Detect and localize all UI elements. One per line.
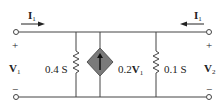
terminal-right-bottom: [207, 95, 212, 100]
terminal-left-top: [14, 30, 19, 35]
current-label-right: I1: [194, 10, 202, 23]
current-label-left: I1: [28, 10, 36, 23]
resistor-0.1s: [153, 32, 159, 97]
plus-sign-left: +: [12, 40, 18, 51]
source-label: 0.2V1: [118, 64, 143, 77]
minus-sign-right: −: [206, 84, 212, 95]
dependent-current-source: [87, 48, 113, 76]
terminal-right-top: [207, 30, 212, 35]
voltage-label-v1: V1: [9, 63, 20, 76]
plus-sign-right: +: [206, 40, 212, 51]
minus-sign-left: −: [12, 84, 18, 95]
terminal-left-bottom: [14, 95, 19, 100]
resistor-0.4s: [73, 32, 79, 97]
resistor-label-0.1s: 0.1 S: [164, 64, 187, 75]
resistor-label-0.4s: 0.4 S: [45, 64, 68, 75]
voltage-label-v2: V2: [204, 63, 215, 76]
